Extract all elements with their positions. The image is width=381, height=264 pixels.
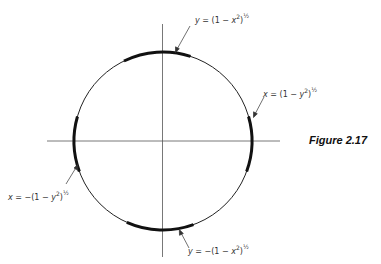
arrowhead-bottom xyxy=(179,230,183,236)
arc-right-thick xyxy=(247,116,252,171)
label-top-equation: y = (1 − x2)½ xyxy=(194,12,249,25)
label-left-equation: x = −(1 − y2)½ xyxy=(7,189,69,202)
figure-caption: Figure 2.17 xyxy=(309,134,368,146)
label-bottom-equation: y = −(1 − x2)½ xyxy=(187,243,249,256)
arrowhead-right xyxy=(254,112,258,118)
leader-arrow-top xyxy=(176,26,190,51)
arc-left-thick xyxy=(74,116,79,171)
arc-bottom-thick xyxy=(127,222,194,230)
unit-circle-diagram: y = (1 − x2)½ x = (1 − y2)½ x = −(1 − y2… xyxy=(0,0,381,264)
arc-top-thick xyxy=(124,52,191,61)
label-right-equation: x = (1 − y2)½ xyxy=(262,86,317,99)
